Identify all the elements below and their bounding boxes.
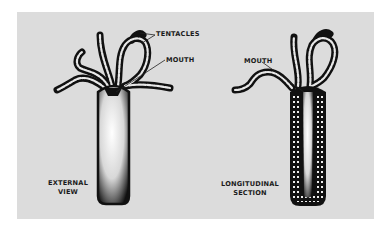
caption-line: EXTERNAL xyxy=(44,179,92,188)
label-mouth-external: MOUTH xyxy=(166,56,195,65)
caption-line: VIEW xyxy=(44,188,92,197)
label-tentacles: TENTACLES xyxy=(156,30,200,39)
label-mouth-section: MOUTH xyxy=(244,57,273,66)
caption-line: SECTION xyxy=(218,189,282,198)
caption-external-view: EXTERNAL VIEW xyxy=(44,179,92,197)
caption-longitudinal-section: LONGITUDINAL SECTION xyxy=(218,180,282,198)
caption-line: LONGITUDINAL xyxy=(218,180,282,189)
